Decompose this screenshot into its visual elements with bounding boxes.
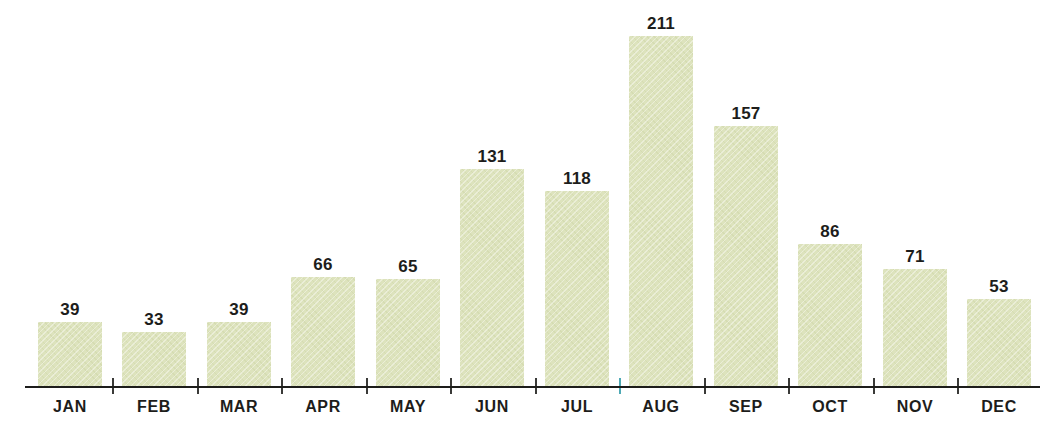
x-axis-line [25,386,1040,388]
bar[interactable] [967,299,1031,387]
category-label: MAY [376,399,440,415]
bar[interactable] [629,36,693,387]
category-label: MAR [207,399,271,415]
bar-value-label: 211 [629,15,693,32]
category-label: FEB [122,399,186,415]
bar-value-label: 39 [38,301,102,318]
bar-value-label: 39 [207,301,271,318]
bar-value-label: 131 [460,148,524,165]
category-label: JUL [545,399,609,415]
bar-value-label: 71 [883,248,947,265]
category-label: OCT [798,399,862,415]
bar-value-label: 33 [122,311,186,328]
plot-area: 39 JAN 33 FEB 39 MAR 66 APR 65 MAY [0,0,1062,431]
bar[interactable] [545,191,609,387]
bar[interactable] [291,277,355,387]
category-label: NOV [883,399,947,415]
bar[interactable] [376,279,440,387]
bar[interactable] [883,269,947,387]
category-label: DEC [967,399,1031,415]
bar[interactable] [122,332,186,387]
category-label: JAN [38,399,102,415]
category-label: APR [291,399,355,415]
bar[interactable] [207,322,271,387]
bar-value-label: 118 [545,170,609,187]
category-label: AUG [629,399,693,415]
category-label: JUN [460,399,524,415]
category-label: SEP [714,399,778,415]
bar-value-label: 66 [291,256,355,273]
bar-value-label: 157 [714,105,778,122]
bar[interactable] [798,244,862,387]
bar[interactable] [714,126,778,387]
bar-value-label: 65 [376,258,440,275]
bar[interactable] [38,322,102,387]
bar-value-label: 53 [967,278,1031,295]
bar-chart: 39 JAN 33 FEB 39 MAR 66 APR 65 MAY [0,0,1062,431]
bar[interactable] [460,169,524,387]
bar-value-label: 86 [798,223,862,240]
